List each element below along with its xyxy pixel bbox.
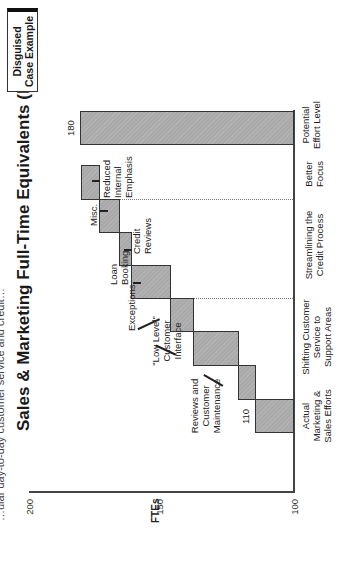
axis-title-ftes: FTEs — [150, 499, 161, 523]
category-streamlining: Streamlining the Credit Process — [303, 207, 325, 283]
annotation-loan-booking: Loan Booking — [108, 251, 130, 285]
badge-line-2: Case Example — [23, 12, 35, 91]
badge-line-1: Disguised — [11, 12, 23, 91]
leader-credit-reviews — [124, 250, 132, 252]
leader-loan-booking — [133, 283, 141, 285]
value-label-actual: 110 — [240, 409, 251, 424]
category-better-focus: Better Focus — [303, 150, 325, 198]
group-separator-1 — [178, 298, 293, 299]
annotation-reviews: Reviews and Customer Maintenance — [189, 376, 222, 436]
chart-page: …ular day-to-day customer service and cr… — [0, 0, 352, 581]
category-shifting: Shifting Customer Service to Support Are… — [300, 298, 333, 376]
tick-100: 100 — [289, 499, 300, 529]
category-potential: Potential Effort Level — [300, 97, 322, 153]
category-baseline — [293, 110, 295, 492]
annotation-misc: Misc. — [88, 204, 99, 226]
cut-off-caption: …ular day-to-day customer service and cr… — [0, 288, 6, 521]
tick-200: 200 — [24, 499, 35, 529]
annotation-credit-reviews: Credit Reviews — [131, 220, 153, 254]
annotation-exceptions: Exceptions — [126, 285, 137, 331]
bar-low-level-interface — [193, 331, 239, 366]
chart-title: Sales & Marketing Full-Time Equivalents … — [14, 47, 34, 431]
value-axis-line — [29, 492, 295, 494]
annotation-low-level: "Low Level" Customer Interface — [150, 316, 183, 366]
bar-actual — [255, 399, 294, 433]
category-actual: Actual Marketing & Sales Efforts — [300, 381, 333, 451]
annotation-reduced-emphasis: Reduced Internal Emphasis — [101, 154, 134, 198]
value-label-potential: 180 — [65, 120, 76, 136]
bar-reduced-emphasis — [81, 165, 100, 200]
leader-reduced — [92, 181, 100, 183]
bar-reviews-maintenance — [238, 365, 256, 400]
group-separator-2 — [99, 199, 293, 200]
leader-misc — [100, 211, 108, 213]
bar-misc — [99, 199, 120, 233]
disguised-case-badge: Disguised Case Example — [7, 8, 38, 92]
bar-potential — [80, 111, 294, 145]
